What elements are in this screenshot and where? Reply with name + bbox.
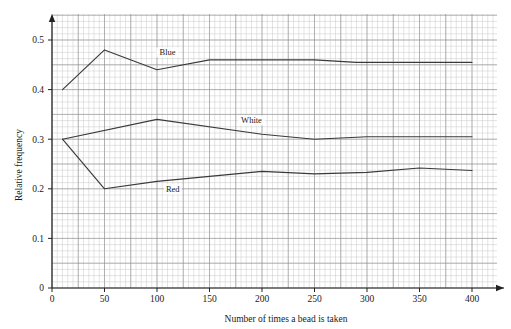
x-tick-label-300: 300 xyxy=(360,294,375,304)
x-tick-label-400: 400 xyxy=(465,294,480,304)
y-axis-tick-labels: 00.10.20.30.40.5 xyxy=(32,35,44,293)
series-label-blue: Blue xyxy=(159,47,175,57)
y-tick-label-0.5: 0.5 xyxy=(32,35,44,45)
y-tick-label-0.4: 0.4 xyxy=(32,85,44,95)
y-axis-title: Relative frequency xyxy=(14,129,24,201)
x-tick-label-50: 50 xyxy=(100,294,110,304)
axes xyxy=(49,14,504,291)
series-label-white: White xyxy=(241,115,262,125)
chart-page: 050100150200250300350400 00.10.20.30.40.… xyxy=(0,0,511,329)
x-tick-label-200: 200 xyxy=(255,294,270,304)
x-tick-label-250: 250 xyxy=(307,294,322,304)
y-tick-label-0.2: 0.2 xyxy=(32,184,44,194)
x-axis-title: Number of times a bead is taken xyxy=(225,314,348,324)
x-tick-label-350: 350 xyxy=(412,294,427,304)
x-tick-label-150: 150 xyxy=(202,294,217,304)
relative-frequency-line-chart: 050100150200250300350400 00.10.20.30.40.… xyxy=(0,0,511,329)
x-tick-label-100: 100 xyxy=(150,294,165,304)
x-axis-tick-labels: 050100150200250300350400 xyxy=(50,294,480,304)
y-tick-label-0.3: 0.3 xyxy=(32,135,44,145)
y-tick-label-0: 0 xyxy=(39,283,44,293)
axis-ticks xyxy=(48,40,472,292)
y-tick-label-0.1: 0.1 xyxy=(32,234,44,244)
series-label-red: Red xyxy=(166,184,180,194)
x-tick-label-0: 0 xyxy=(50,294,55,304)
